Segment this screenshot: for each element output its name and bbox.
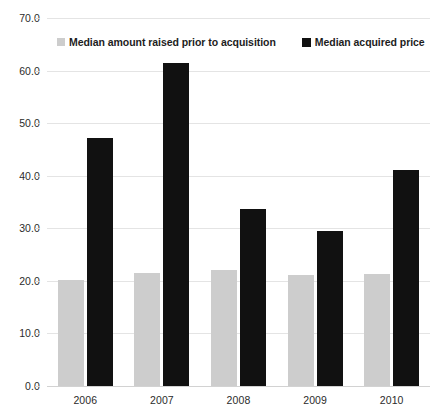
y-tick-mark [35,18,40,19]
plot-area [47,18,430,386]
y-tick-mark [35,176,40,177]
x-tick-label-2006: 2006 [47,394,124,406]
bar-2009-series-1 [288,275,314,386]
bar-2007-series-1 [134,273,160,386]
y-axis: 0.010.020.030.040.050.060.070.0 [0,18,40,386]
bar-2010-series-2 [393,170,419,386]
bar-group-2007 [124,18,201,386]
y-tick-mark [35,71,40,72]
x-tick-label-2010: 2010 [353,394,430,406]
y-tick-mark [35,333,40,334]
y-tick-mark [35,281,40,282]
bar-2008-series-2 [240,209,266,386]
x-tick-label-2009: 2009 [277,394,354,406]
bar-2007-series-2 [163,63,189,386]
y-tick-mark [35,386,40,387]
bar-chart: Median amount raised prior to acquisitio… [0,0,435,415]
bar-groups [47,18,430,386]
y-tick-mark [35,228,40,229]
bar-2010-series-1 [364,274,390,387]
x-tick-label-2007: 2007 [124,394,201,406]
bar-2009-series-2 [317,231,343,386]
bar-2008-series-1 [211,270,237,386]
bar-2006-series-1 [58,280,84,386]
bar-group-2010 [353,18,430,386]
y-tick-mark [35,123,40,124]
bar-group-2009 [277,18,354,386]
x-tick-label-2008: 2008 [200,394,277,406]
bar-group-2006 [47,18,124,386]
bar-2006-series-2 [87,138,113,386]
bar-group-2008 [200,18,277,386]
gridline [47,386,430,387]
x-axis: 20062007200820092010 [47,390,430,412]
